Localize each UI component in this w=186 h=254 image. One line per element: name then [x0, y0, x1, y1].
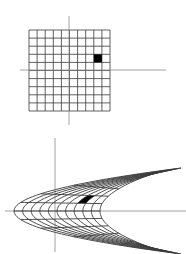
figure-canvas: [0, 0, 186, 254]
w-plane-panel: [5, 138, 186, 254]
highlighted-cell: [94, 54, 102, 62]
cross-curve: [21, 202, 102, 203]
cross-curve: [21, 218, 102, 219]
z-plane-panel: [20, 16, 166, 125]
square-grid: [29, 30, 110, 111]
conformal-map-figure: [0, 0, 186, 254]
